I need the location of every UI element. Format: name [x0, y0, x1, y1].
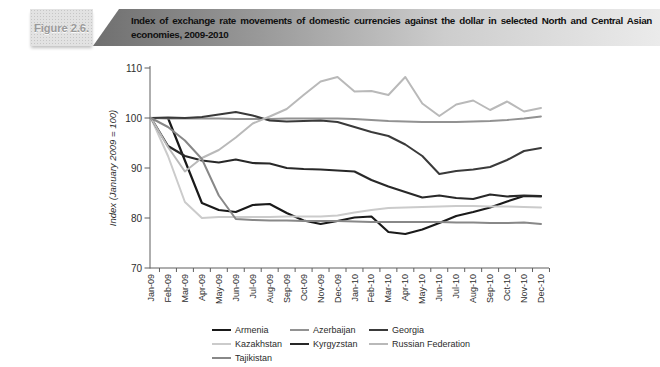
legend-item-armenia: Armenia: [212, 323, 290, 336]
x-tick-label: Mar-10: [383, 274, 393, 303]
y-axis-title: Index (January 2009 = 100): [107, 110, 118, 226]
x-tick-label: Jul-09: [248, 274, 258, 299]
legend-swatch-russian-federation: [369, 343, 388, 345]
x-tick-label: Apr-09: [197, 274, 207, 301]
legend-item-kazakhstan: Kazakhstan: [212, 337, 290, 350]
x-tick-label: Apr-10: [400, 274, 410, 301]
x-tick-label: Nov-09: [316, 274, 326, 303]
legend-label-tajikistan: Tajikistan: [235, 353, 272, 363]
y-tick-label: 90: [131, 163, 143, 174]
x-tick-label: Jul-10: [451, 274, 461, 299]
legend-swatch-georgia: [369, 329, 388, 331]
legend-swatch-armenia: [212, 329, 231, 331]
series-line-azerbaijan: [151, 117, 541, 123]
x-tick-label: Jun-10: [434, 274, 444, 302]
y-tick-label: 80: [131, 213, 143, 224]
legend-label-kazakhstan: Kazakhstan: [235, 339, 282, 349]
legend-swatch-tajikistan: [212, 357, 231, 359]
legend-item-tajikistan: Tajikistan: [212, 351, 290, 364]
legend-label-armenia: Armenia: [235, 325, 269, 335]
x-tick-label: Jan-09: [146, 274, 156, 302]
x-tick-label: Sep-10: [485, 274, 495, 303]
x-tick-label: Aug-10: [468, 274, 478, 303]
x-tick-label: Mar-09: [180, 274, 190, 303]
legend-label-georgia: Georgia: [392, 325, 424, 335]
x-tick-label: Feb-10: [366, 274, 376, 303]
legend-item-azerbaijan: Azerbaijan: [290, 323, 369, 336]
x-tick-label: Dec-09: [333, 274, 343, 303]
x-tick-label: Dec-10: [536, 274, 546, 303]
x-tick-label: May-10: [417, 274, 427, 304]
legend-swatch-azerbaijan: [290, 329, 309, 331]
y-tick-label: 110: [126, 63, 142, 74]
x-tick-label: Jan-10: [350, 274, 360, 302]
x-tick-label: Oct-10: [502, 274, 512, 301]
series-line-kyrgyzstan: [151, 118, 541, 199]
x-tick-label: Aug-09: [265, 274, 275, 303]
x-tick-label: Sep-09: [282, 274, 292, 303]
x-tick-label: Jun-09: [231, 274, 241, 302]
legend-item-kyrgyzstan: Kyrgyzstan: [290, 337, 369, 350]
chart-legend: ArmeniaAzerbaijanGeorgiaKazakhstanKyrgyz…: [212, 323, 572, 364]
legend-item-georgia: Georgia: [369, 323, 529, 336]
legend-item-russian-federation: Russian Federation: [369, 337, 529, 350]
y-tick-label: 100: [125, 113, 142, 124]
legend-swatch-kyrgyzstan: [290, 343, 309, 345]
line-chart: 708090100110Jan-09Feb-09Mar-09Apr-09May-…: [0, 0, 660, 367]
legend-label-kyrgyzstan: Kyrgyzstan: [313, 339, 358, 349]
legend-swatch-kazakhstan: [212, 343, 231, 345]
x-tick-label: Nov-10: [519, 274, 529, 303]
figure-2-6: Figure 2.6. Index of exchange rate movem…: [0, 0, 660, 367]
legend-label-russian-federation: Russian Federation: [392, 339, 470, 349]
x-tick-label: May-09: [214, 274, 224, 304]
x-tick-label: Oct-09: [299, 274, 309, 301]
x-tick-label: Feb-09: [163, 274, 173, 303]
legend-label-azerbaijan: Azerbaijan: [313, 325, 356, 335]
y-tick-label: 70: [131, 263, 143, 274]
